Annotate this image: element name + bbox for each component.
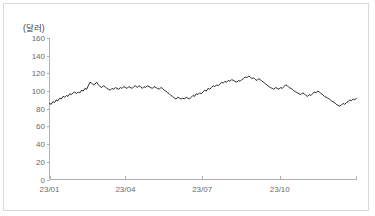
y-axis-tick-labels: 020406080100120140160 [32,34,46,185]
line-chart-svg: 020406080100120140160 23/0123/0423/0723/… [4,4,370,212]
x-tick-label: 23/07 [192,185,213,194]
chart-plot-area: (달러) 020406080100120140160 23/0123/0423/… [4,4,370,212]
y-tick-label: 160 [32,34,46,43]
y-tick-label: 100 [32,87,46,96]
x-tick-label: 23/01 [39,185,60,194]
x-axis-tick-labels: 23/0123/0423/0723/10 [39,185,290,194]
x-tick-label: 23/10 [270,185,291,194]
x-tick-label: 23/04 [115,185,136,194]
y-tick-label: 20 [36,158,45,167]
chart-card: (달러) 020406080100120140160 23/0123/0423/… [3,3,369,211]
y-tick-label: 40 [36,140,45,149]
y-tick-label: 0 [41,176,46,185]
y-tick-label: 140 [32,52,46,61]
y-tick-label: 60 [36,122,45,131]
price-series-line [50,76,357,106]
y-tick-label: 80 [36,105,45,114]
y-tick-label: 120 [32,69,46,78]
x-axis-tick-marks [51,176,281,180]
